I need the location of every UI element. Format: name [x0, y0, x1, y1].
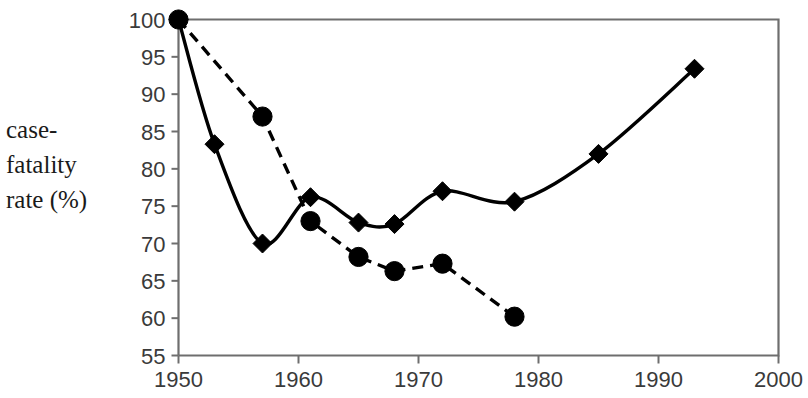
- y-tick-label: 70: [141, 232, 165, 257]
- data-markers: [169, 10, 704, 326]
- x-tick-label: 2000: [754, 367, 803, 392]
- y-tick-label: 95: [141, 45, 165, 70]
- marker-circle: [169, 10, 188, 29]
- x-tick-labels: 195019601970198019902000: [154, 367, 803, 392]
- marker-circle: [349, 247, 368, 266]
- marker-diamond: [205, 135, 224, 154]
- y-tick-label: 85: [141, 120, 165, 145]
- data-series: [179, 20, 695, 317]
- marker-diamond: [505, 192, 524, 211]
- marker-circle: [433, 254, 452, 273]
- chart-canvas: 556065707580859095100 195019601970198019…: [0, 0, 808, 398]
- y-tick-labels: 556065707580859095100: [129, 8, 166, 369]
- marker-circle: [505, 307, 524, 326]
- x-tick-label: 1950: [154, 367, 203, 392]
- y-tick-label: 55: [141, 344, 165, 369]
- series-line-solid-diamond-series: [179, 20, 695, 245]
- x-tick-label: 1960: [274, 367, 323, 392]
- marker-diamond: [349, 213, 368, 232]
- marker-circle: [301, 212, 320, 231]
- y-tick-label: 60: [141, 306, 165, 331]
- y-tick-label: 90: [141, 82, 165, 107]
- chart-figure: case- fatality rate (%) 5560657075808590…: [0, 0, 808, 398]
- series-line-dashed-circle-series: [179, 20, 515, 317]
- marker-diamond: [433, 182, 452, 201]
- marker-diamond: [385, 215, 404, 234]
- marker-circle: [253, 107, 272, 126]
- y-tick-label: 80: [141, 157, 165, 182]
- y-tick-label: 75: [141, 194, 165, 219]
- y-tick-label: 65: [141, 269, 165, 294]
- y-tick-label: 100: [129, 8, 166, 33]
- marker-circle: [385, 262, 404, 281]
- x-tick-label: 1990: [634, 367, 683, 392]
- x-tick-label: 1970: [394, 367, 443, 392]
- x-tick-label: 1980: [514, 367, 563, 392]
